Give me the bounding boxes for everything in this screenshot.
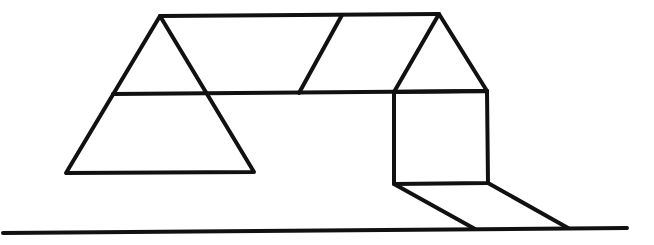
right-roof-triangle — [394, 14, 487, 92]
right-square — [394, 91, 488, 184]
shadow-right-edge — [488, 183, 568, 228]
top-band-top-edge — [160, 14, 439, 16]
line-drawing-figure — [0, 0, 654, 245]
shadow-left-edge — [394, 184, 475, 229]
ground-line — [3, 228, 627, 233]
band-diagonal — [299, 15, 342, 93]
